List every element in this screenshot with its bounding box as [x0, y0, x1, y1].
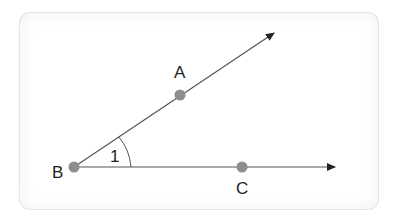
- point-b[interactable]: [69, 162, 80, 173]
- angle-diagram: A B C 1: [0, 0, 398, 221]
- ray-ba: [74, 33, 274, 167]
- point-a[interactable]: [175, 90, 186, 101]
- label-a: A: [174, 63, 186, 82]
- angle-label: 1: [110, 147, 119, 166]
- point-c[interactable]: [237, 162, 248, 173]
- label-b: B: [52, 163, 63, 182]
- label-c: C: [236, 179, 248, 198]
- angle-arc: [119, 137, 131, 167]
